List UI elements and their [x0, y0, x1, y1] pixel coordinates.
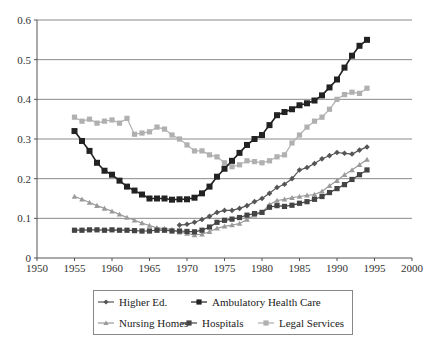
square-marker — [72, 115, 77, 120]
square-marker — [274, 203, 279, 208]
square-marker — [297, 102, 303, 108]
square-marker — [102, 119, 107, 124]
square-marker — [102, 228, 107, 233]
square-marker — [289, 140, 294, 145]
square-marker — [184, 196, 190, 202]
square-marker — [327, 190, 332, 195]
square-marker — [109, 227, 114, 232]
legend: Higher Ed.Ambulatory Health CareNursing … — [94, 291, 353, 335]
diamond-marker — [199, 217, 205, 223]
square-marker — [312, 119, 317, 124]
square-marker — [364, 167, 369, 172]
square-marker — [364, 37, 370, 43]
square-marker — [184, 142, 189, 147]
square-marker — [87, 148, 93, 154]
square-marker — [214, 174, 220, 180]
triangle-marker — [342, 172, 348, 177]
square-marker — [327, 107, 332, 112]
square-marker — [79, 228, 84, 233]
square-marker — [192, 229, 197, 234]
square-marker — [259, 132, 265, 138]
square-marker — [304, 199, 309, 204]
data-series — [72, 37, 371, 237]
square-marker — [124, 228, 129, 233]
square-marker — [94, 160, 100, 166]
square-marker — [349, 53, 355, 59]
square-marker — [222, 160, 227, 165]
square-marker — [349, 177, 354, 182]
square-marker — [229, 158, 235, 164]
square-marker — [342, 65, 348, 71]
x-tick-label: 1970 — [176, 262, 199, 274]
diamond-marker — [342, 150, 348, 156]
square-marker — [214, 220, 219, 225]
square-marker — [267, 205, 272, 210]
y-tick-label: 0.2 — [17, 173, 31, 185]
x-tick-label: 1960 — [101, 262, 124, 274]
x-axis-tick-labels: 1950195519601965197019751980198519901995… — [26, 262, 424, 274]
square-marker — [274, 154, 279, 159]
square-marker — [237, 162, 242, 167]
square-marker — [222, 166, 228, 172]
square-marker — [312, 98, 318, 104]
square-marker — [252, 159, 257, 164]
triangle-marker — [237, 221, 243, 226]
diamond-marker — [334, 150, 340, 156]
diamond-marker — [327, 153, 333, 159]
square-marker — [349, 90, 354, 95]
square-marker — [162, 126, 167, 131]
square-marker — [117, 228, 122, 233]
square-marker — [342, 182, 347, 187]
diamond-marker — [184, 221, 190, 227]
square-marker — [282, 109, 288, 115]
x-tick-label: 1980 — [251, 262, 274, 274]
square-marker — [207, 152, 212, 157]
square-marker — [87, 227, 92, 232]
y-tick-label: 0.3 — [17, 133, 31, 145]
diamond-marker — [244, 203, 250, 209]
square-marker — [289, 106, 295, 112]
diamond-marker — [192, 220, 198, 226]
triangle-marker — [364, 157, 370, 162]
legend-label: Ambulatory Health Care — [212, 296, 321, 308]
square-marker — [214, 154, 219, 159]
square-marker — [207, 184, 213, 190]
square-marker — [94, 121, 99, 126]
square-marker — [252, 211, 257, 216]
square-marker — [109, 172, 115, 178]
square-marker — [289, 203, 294, 208]
square-marker — [237, 150, 243, 156]
square-marker — [304, 100, 310, 106]
square-marker — [319, 194, 324, 199]
diamond-marker — [252, 199, 258, 205]
square-marker — [244, 213, 249, 218]
square-marker — [207, 224, 212, 229]
square-marker — [259, 210, 264, 215]
x-tick-label: 2000 — [401, 262, 424, 274]
y-tick-label: 0.6 — [17, 14, 31, 26]
square-marker — [319, 115, 324, 120]
square-marker — [79, 119, 84, 124]
y-tick-label: 0.4 — [17, 93, 31, 105]
diamond-marker — [357, 147, 363, 153]
triangle-marker — [72, 194, 78, 199]
x-tick-label: 1975 — [214, 262, 237, 274]
square-marker — [357, 91, 362, 96]
square-marker — [79, 138, 85, 144]
y-axis-tick-labels: 00.10.20.30.40.50.6 — [17, 14, 31, 264]
diamond-marker — [222, 208, 228, 214]
square-marker — [342, 92, 347, 97]
square-marker — [72, 128, 78, 134]
diamond-marker — [237, 206, 243, 212]
square-marker — [139, 130, 144, 135]
series-ambulatory-health-care — [72, 37, 371, 203]
square-marker — [199, 148, 204, 153]
square-marker — [154, 125, 159, 130]
square-marker — [117, 178, 123, 184]
square-marker — [139, 228, 144, 233]
square-marker — [147, 129, 152, 134]
square-marker — [327, 84, 333, 90]
square-marker — [297, 201, 302, 206]
square-marker — [102, 168, 108, 174]
diamond-marker — [214, 210, 220, 216]
